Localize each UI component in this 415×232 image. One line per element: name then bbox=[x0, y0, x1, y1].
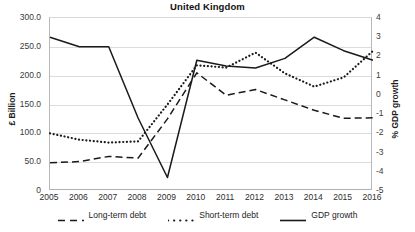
x-tick-label: 2016 bbox=[363, 192, 382, 202]
y-tick-label-right: 1 bbox=[376, 70, 392, 80]
legend-swatch-solid bbox=[280, 211, 306, 220]
legend-label: GDP growth bbox=[311, 210, 357, 220]
chart-title: United Kingdom bbox=[0, 1, 415, 12]
series-lines bbox=[50, 18, 373, 191]
y-tick-label-right: -4 bbox=[376, 166, 392, 176]
y-tick-label-right: -1 bbox=[376, 108, 392, 118]
x-tick-label: 2007 bbox=[98, 192, 117, 202]
series-line bbox=[50, 51, 373, 143]
chart-container: United Kingdom £ Billion % GDP growth 30… bbox=[0, 0, 415, 232]
y-tick-label-left: 50.0 bbox=[0, 156, 41, 166]
legend-swatch-dashed bbox=[58, 211, 84, 220]
y-tick-label-left: 100.0 bbox=[0, 127, 41, 137]
y-tick-label-left: 250.0 bbox=[0, 41, 41, 51]
x-tick-label: 2008 bbox=[128, 192, 147, 202]
x-tick-label: 2009 bbox=[157, 192, 176, 202]
plot-area bbox=[49, 17, 372, 190]
y-tick-label-right: -3 bbox=[376, 147, 392, 157]
chart-legend: Long-term debtShort-term debtGDP growth bbox=[0, 210, 415, 220]
x-tick-label: 2013 bbox=[274, 192, 293, 202]
y-tick-label-right: 4 bbox=[376, 12, 392, 22]
y-axis-label-left: £ Billion bbox=[7, 92, 17, 125]
x-tick-label: 2011 bbox=[216, 192, 234, 202]
legend-item[interactable]: Long-term debt bbox=[58, 210, 147, 220]
y-tick-label-left: 0 bbox=[0, 185, 41, 195]
x-tick-label: 2012 bbox=[245, 192, 264, 202]
legend-swatch-dotted bbox=[168, 211, 194, 220]
y-tick-label-right: 0 bbox=[376, 89, 392, 99]
y-tick-label-right: -2 bbox=[376, 127, 392, 137]
series-line bbox=[50, 37, 373, 177]
x-tick-label: 2006 bbox=[69, 192, 88, 202]
legend-label: Long-term debt bbox=[89, 210, 147, 220]
x-tick-label: 2015 bbox=[333, 192, 352, 202]
y-tick-label-left: 200.0 bbox=[0, 70, 41, 80]
y-tick-label-left: 300.0 bbox=[0, 12, 41, 22]
y-tick-label-left: 150.0 bbox=[0, 99, 41, 109]
y-tick-label-right: 2 bbox=[376, 50, 392, 60]
x-tick-label: 2005 bbox=[40, 192, 59, 202]
x-tick-label: 2010 bbox=[186, 192, 205, 202]
legend-label: Short-term debt bbox=[199, 210, 258, 220]
legend-item[interactable]: GDP growth bbox=[280, 210, 357, 220]
x-tick-label: 2014 bbox=[304, 192, 323, 202]
y-tick-label-right: 3 bbox=[376, 31, 392, 41]
legend-item[interactable]: Short-term debt bbox=[168, 210, 258, 220]
series-line bbox=[50, 73, 373, 163]
